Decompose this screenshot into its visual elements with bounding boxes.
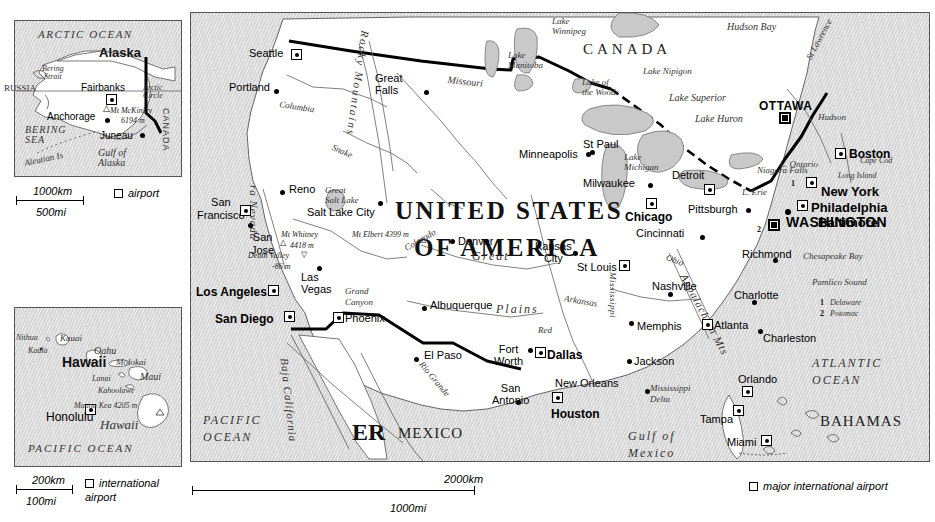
city-label-las-vegas: Las Vegas [301, 271, 332, 295]
city-label-seattle: Seattle [249, 48, 283, 59]
city-dot-kansas-city[interactable] [573, 251, 578, 256]
country-label-united-states: UNITED STATES [395, 198, 623, 223]
city-dot-juneau[interactable] [140, 133, 145, 138]
gulf-of-alaska-label: Gulf of Alaska [98, 148, 126, 168]
airport-marker-st-louis[interactable] [619, 260, 630, 271]
city-dot-great-falls[interactable] [424, 90, 429, 95]
key-callout-2: 2 [757, 226, 761, 234]
city-label-san-jose: San Jose [251, 231, 274, 256]
city-dot-anchorage[interactable] [105, 118, 110, 123]
country-label-er: ER [352, 420, 385, 444]
city-dot-albuquerque[interactable] [422, 306, 427, 311]
airport-marker-orlando[interactable] [742, 386, 753, 397]
city-dot-charleston[interactable] [758, 329, 763, 334]
key-label-delaware: Delaware [830, 299, 861, 307]
long-island-label: Long Island [838, 172, 876, 180]
main-legend: major international airport [749, 481, 888, 492]
mississippi-delta-label: Mississippi Delta [650, 383, 691, 405]
city-label-jackson: Jackson [634, 356, 674, 367]
island-label-kahoolawe: Kahoolawe [98, 387, 134, 395]
city-dot-pittsburgh[interactable] [746, 208, 751, 213]
bering-strait-label: Bering Strait [42, 65, 64, 81]
city-dot-new-orleans[interactable] [645, 389, 650, 394]
airport-marker-new-york[interactable] [806, 177, 817, 188]
airport-marker-boston[interactable] [835, 148, 846, 159]
city-label-charlotte: Charlotte [734, 290, 779, 301]
main-scale-mi-label: 1000mi [390, 503, 426, 514]
pacific-ocean-label-main: PACIFIC OCEAN [203, 412, 261, 447]
city-dot-jackson[interactable] [627, 359, 632, 364]
city-dot-las-vegas[interactable] [317, 266, 322, 271]
city-label-phoenix: Phoenix [345, 313, 385, 324]
city-dot-memphis[interactable] [629, 321, 634, 326]
city-label-detroit: Detroit [672, 170, 704, 181]
lake-manitoba-label: Lake Manitoba [508, 50, 543, 71]
airport-marker-chicago[interactable] [646, 198, 657, 209]
lake-erie-label: L. Erie [742, 188, 767, 197]
city-label-tampa: Tampa [700, 414, 733, 425]
city-dot-san-antonio[interactable] [516, 400, 521, 405]
airport-marker-atlanta[interactable] [702, 319, 713, 330]
city-dot-st-paul[interactable] [590, 150, 595, 155]
city-label-richmond: Richmond [742, 249, 792, 260]
city-label-los-angeles: Los Angeles [196, 286, 267, 298]
island-label-kaula: Kaula [28, 347, 48, 355]
airport-legend-symbol-main [749, 482, 758, 491]
airport-marker-dallas[interactable] [535, 347, 546, 358]
city-label-baltimore: Baltimore [818, 216, 878, 229]
capital-airport-marker-ottawa[interactable] [779, 112, 791, 124]
city-label-houston: Houston [551, 408, 600, 420]
capital-label-ottawa: OTTAWA [759, 100, 812, 112]
airport-marker-philadelphia[interactable] [797, 200, 808, 211]
city-label-new-orleans: New Orleans [555, 378, 619, 389]
peak-label-elbert: Mt Elbert 4399 m [352, 231, 409, 239]
lake-of-the-woods-label: Lake of the Woods [582, 77, 619, 98]
city-dot-san-jose[interactable] [248, 223, 253, 228]
airport-marker-tampa[interactable] [733, 405, 744, 416]
city-dot-portland[interactable] [274, 89, 279, 94]
city-dot-richmond[interactable] [773, 258, 778, 263]
city-label-great-falls: Great Falls [375, 72, 403, 96]
map-figure: ARCTIC OCEAN Alaska Bering Strait RUSSIA… [0, 0, 935, 522]
city-label-fort-worth: Fort Worth [494, 343, 523, 367]
arctic-circle-label: Arctic Circle [143, 84, 163, 100]
city-dot-el-paso[interactable] [414, 357, 419, 362]
key-number-2: 2 [820, 310, 824, 318]
city-dot-reno[interactable] [280, 190, 285, 195]
city-dot-fort-worth[interactable] [528, 348, 533, 353]
red-river-label: Red [538, 326, 552, 335]
key-callout-1: 1 [791, 180, 795, 188]
alaska-scale-tick-right [83, 196, 84, 205]
main-scale-bar-km [192, 490, 475, 491]
airport-marker-san-francisco[interactable] [240, 205, 251, 216]
alaska-scale-bar-km [16, 200, 84, 201]
great-plains-label-great: Great [472, 250, 510, 262]
city-label-reno: Reno [289, 184, 315, 195]
airport-legend-symbol-hawaii [85, 479, 94, 488]
city-dot-charlotte[interactable] [752, 300, 757, 305]
airport-marker-los-angeles[interactable] [268, 285, 279, 296]
city-dot-salt-lake-city[interactable] [378, 201, 383, 206]
city-label-albuquerque: Albuquerque [430, 300, 492, 311]
airport-marker-detroit[interactable] [704, 184, 715, 195]
city-label-portland: Portland [229, 82, 270, 93]
airport-marker-seattle[interactable] [291, 49, 302, 60]
hawaii-scale-tick-left [16, 485, 17, 494]
city-dot-nashville[interactable] [668, 292, 673, 297]
capital-airport-marker-washington[interactable] [768, 219, 780, 231]
city-label-san-antonio: San Antonio [492, 382, 529, 406]
city-dot-milwaukee[interactable] [648, 183, 653, 188]
city-label-milwaukee: Milwaukee [583, 178, 635, 189]
city-dot-baltimore[interactable] [785, 209, 791, 215]
city-label-miami: Miami [727, 437, 756, 448]
city-dot-cincinnati[interactable] [700, 235, 705, 240]
city-dot-denver[interactable] [450, 239, 455, 244]
airport-marker-san-diego[interactable] [284, 311, 295, 322]
airport-marker-houston[interactable] [552, 392, 563, 403]
mississippi-river-label: Mississippi [608, 272, 617, 318]
airport-marker-miami[interactable] [761, 435, 772, 446]
lake-huron-label: Lake Huron [695, 114, 743, 124]
lake-winnipeg-label: Lake Winnipeg [552, 16, 586, 37]
airport-marker-phoenix[interactable] [333, 312, 344, 323]
island-label-lanai: Lanai [92, 375, 111, 383]
